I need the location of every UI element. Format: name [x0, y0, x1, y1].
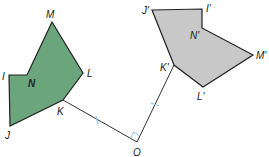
- label-i: I: [2, 71, 5, 82]
- label-l-prime: L': [197, 91, 206, 102]
- label-j-prime: J': [141, 5, 150, 16]
- label-m-prime: M': [256, 50, 267, 61]
- label-center-o: O: [133, 147, 141, 157]
- original-polygon: [9, 22, 83, 126]
- label-k: K: [57, 106, 65, 117]
- segment-ok-prime: [137, 65, 174, 142]
- label-k-prime: K': [160, 62, 170, 73]
- rotation-diagram: M L K J I N J' I' N' M' L' K' O: [0, 0, 269, 157]
- image-polygon: [152, 9, 253, 87]
- label-i-prime: I': [206, 3, 212, 14]
- label-n-prime: N': [190, 30, 200, 41]
- label-n: N: [28, 78, 36, 89]
- label-l: L: [87, 68, 93, 79]
- segment-ok: [63, 100, 137, 142]
- label-j: J: [4, 130, 11, 141]
- label-m: M: [46, 9, 55, 20]
- right-angle-mark: [131, 132, 141, 138]
